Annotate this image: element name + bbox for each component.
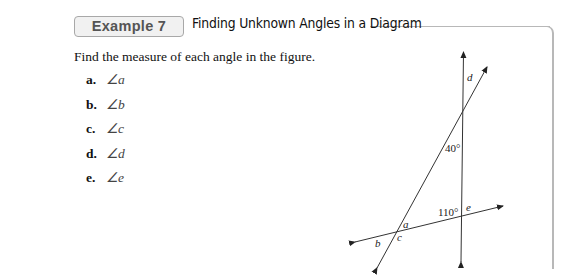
label-b: b [375,237,381,249]
label-110: 110° [438,206,459,218]
label-a: a [403,218,409,230]
label-c: c [397,231,402,243]
label-e: e [466,201,471,213]
angle-diagram: d 40° 110° e a c b [0,0,588,279]
label-40: 40° [445,142,460,154]
slanted-line [377,67,487,268]
vertical-line [461,52,464,262]
label-d: d [467,71,473,83]
